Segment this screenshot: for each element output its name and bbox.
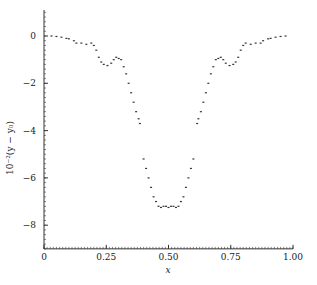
x-tick-label: 0.25 xyxy=(96,252,116,262)
data-point xyxy=(158,206,160,207)
chart-canvas: 0−2−4−6−8 00.250.500.751.00 x 10⁻²(y − y… xyxy=(0,0,317,285)
data-point xyxy=(155,201,157,202)
y-tick-label: −4 xyxy=(23,126,37,136)
data-point xyxy=(255,42,257,43)
data-point xyxy=(185,187,187,188)
data-point xyxy=(275,37,277,38)
data-point xyxy=(93,45,95,46)
data-point xyxy=(80,42,82,43)
data-point xyxy=(138,118,140,119)
data-point xyxy=(68,38,70,39)
data-point xyxy=(280,36,282,37)
data-point xyxy=(125,73,127,74)
data-point xyxy=(212,66,214,67)
data-point xyxy=(50,35,52,36)
data-series xyxy=(50,35,286,208)
data-point xyxy=(150,187,152,188)
data-point xyxy=(120,59,122,60)
y-axis-label: 10⁻²(y − y₀) xyxy=(5,121,15,175)
data-point xyxy=(190,168,192,169)
axes xyxy=(44,10,293,249)
data-point xyxy=(229,65,231,66)
data-point xyxy=(110,63,112,64)
data-point xyxy=(55,36,57,37)
data-point xyxy=(267,38,269,39)
data-point xyxy=(133,102,135,103)
data-point xyxy=(182,196,184,197)
data-point xyxy=(202,102,204,103)
data-point xyxy=(197,118,199,119)
data-point xyxy=(98,57,100,58)
data-point xyxy=(153,196,155,197)
x-axis-label: x xyxy=(165,265,170,275)
data-point xyxy=(250,44,252,45)
data-point xyxy=(285,35,287,36)
data-point xyxy=(118,58,120,59)
data-point xyxy=(100,61,102,62)
data-point xyxy=(175,207,177,208)
data-point xyxy=(210,73,212,74)
data-point xyxy=(242,45,244,46)
data-point xyxy=(85,44,87,45)
data-point xyxy=(168,207,170,208)
data-point xyxy=(135,111,137,112)
data-point xyxy=(232,64,234,65)
data-point xyxy=(220,57,222,58)
data-point xyxy=(145,168,147,169)
x-tick-label: 0.50 xyxy=(158,252,178,262)
y-tick-label: −8 xyxy=(23,220,37,230)
x-tick-label: 1.00 xyxy=(283,252,303,262)
data-point xyxy=(148,177,150,178)
data-point xyxy=(180,201,182,202)
data-point xyxy=(192,158,194,159)
data-point xyxy=(270,38,272,39)
data-point xyxy=(196,123,198,124)
data-point xyxy=(240,50,242,51)
data-point xyxy=(139,123,141,124)
data-point xyxy=(60,37,62,38)
x-axis-ticks: 00.250.500.751.00 xyxy=(41,245,303,262)
data-point xyxy=(207,83,209,84)
data-point xyxy=(143,158,145,159)
data-point xyxy=(163,206,165,207)
data-point xyxy=(172,206,174,207)
data-point xyxy=(103,64,105,65)
y-tick-label: −2 xyxy=(23,78,36,88)
data-point xyxy=(217,58,219,59)
data-point xyxy=(235,61,237,62)
data-point xyxy=(65,38,67,39)
data-point xyxy=(106,65,108,66)
data-point xyxy=(115,57,117,58)
data-point xyxy=(177,206,179,207)
y-tick-label: −6 xyxy=(23,173,37,183)
data-point xyxy=(128,83,130,84)
data-point xyxy=(165,206,167,207)
data-point xyxy=(215,59,217,60)
data-point xyxy=(187,177,189,178)
data-point xyxy=(123,66,125,67)
data-point xyxy=(73,40,75,41)
data-point xyxy=(95,50,97,51)
data-point xyxy=(75,42,77,43)
y-tick-label: 0 xyxy=(30,31,36,41)
data-point xyxy=(170,206,172,207)
x-tick-label: 0 xyxy=(41,252,47,262)
data-point xyxy=(237,57,239,58)
data-point xyxy=(205,92,207,93)
data-point xyxy=(222,59,224,60)
x-tick-label: 0.75 xyxy=(221,252,241,262)
data-point xyxy=(113,59,115,60)
data-point xyxy=(160,207,162,208)
data-point xyxy=(262,40,264,41)
data-point xyxy=(90,42,92,43)
data-point xyxy=(200,111,202,112)
data-point xyxy=(245,42,247,43)
data-point xyxy=(225,63,227,64)
data-point xyxy=(130,92,132,93)
data-point xyxy=(260,42,262,43)
